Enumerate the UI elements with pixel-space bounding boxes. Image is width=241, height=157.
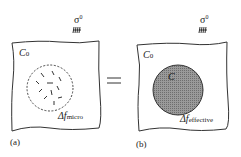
load-arrows-b bbox=[199, 27, 207, 33]
effective-inclusion bbox=[153, 65, 203, 115]
inclusion-label: C bbox=[168, 72, 175, 82]
micro-region-circle bbox=[27, 65, 73, 111]
equals-sign bbox=[107, 78, 121, 83]
medium-label-b: C0 bbox=[143, 50, 153, 60]
load-label-b: σ0 bbox=[200, 14, 208, 25]
load-arrows-a bbox=[73, 27, 81, 33]
panel-a-label: (a) bbox=[10, 138, 20, 147]
medium-label-a: C0 bbox=[19, 48, 29, 58]
delta-label-b: Δfeffective bbox=[180, 114, 213, 124]
load-label-a: σ0 bbox=[74, 14, 82, 25]
panel-b-label: (b) bbox=[136, 140, 147, 149]
delta-label-a: Δfmicro bbox=[58, 111, 83, 121]
microcracks bbox=[36, 71, 62, 105]
